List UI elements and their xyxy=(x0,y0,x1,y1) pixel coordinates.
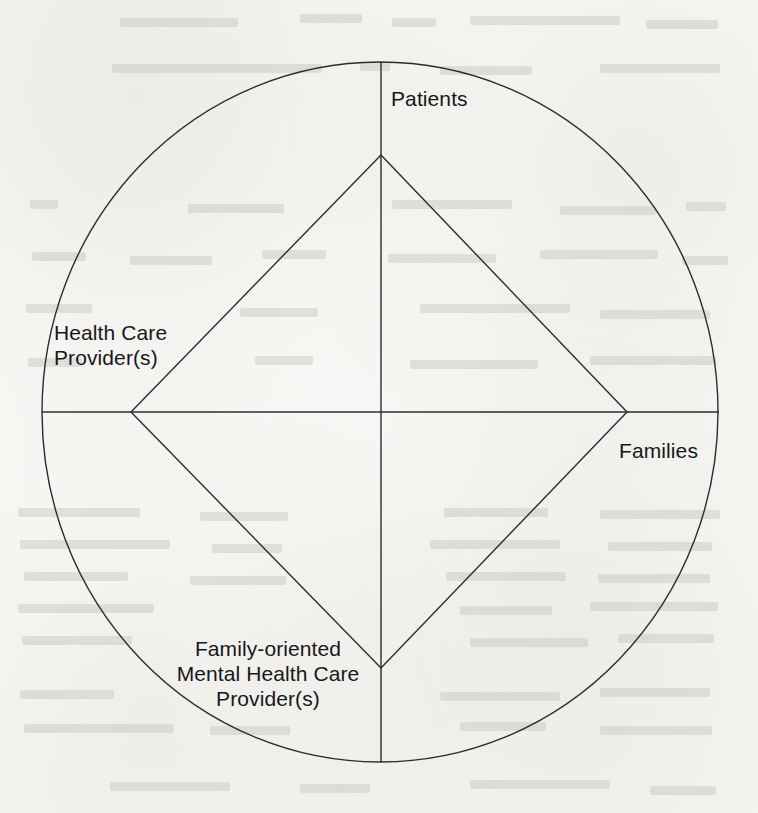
figure-canvas: Patients Health CareProvider(s) Families… xyxy=(0,0,758,813)
relationship-diagram xyxy=(0,0,758,813)
